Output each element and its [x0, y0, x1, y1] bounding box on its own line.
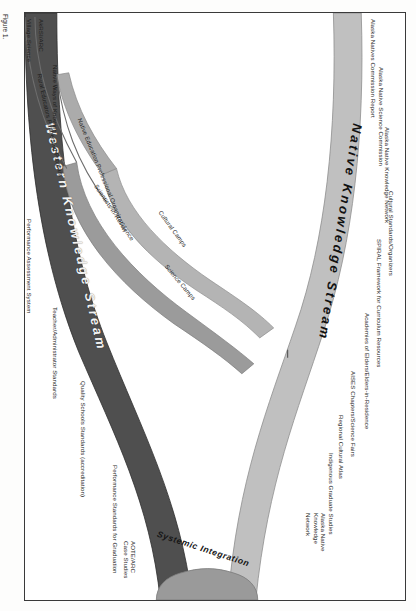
stream-diagram [25, 13, 405, 600]
label-village-science: Village Science [26, 19, 33, 62]
label-academies-of-elders: Academies of Elders/Elders-in-Residence [364, 313, 371, 429]
figure-frame: Alaska Natives Commission Report Alaska … [24, 12, 406, 601]
label-alaska-native-knowledge-network-2: Alaska Native Knowledge Network [305, 513, 327, 563]
label-indigenous-graduate-studies: Indigenous Graduate Studies [328, 453, 335, 535]
label-spiral-framework: SPIRAL Framework for Curriculum Resource… [376, 239, 383, 368]
label-teacher-administrator-standards: Teacher/Administrator Standards [52, 307, 59, 399]
figure-rotated-wrapper: Alaska Natives Commission Report Alaska … [0, 0, 416, 611]
label-alaska-natives-commission-report: Alaska Natives Commission Report [370, 19, 377, 118]
label-performance-assessment-system: Performance Assessment System [26, 219, 33, 313]
label-aises-chapters-science-fairs: AISES Chapters/Science Fairs [350, 371, 357, 457]
label-cultural-standards-organizers: Cultural Standards/Organizers [388, 191, 395, 276]
label-regional-cultural-atlas: Regional Cultural Atlas [338, 415, 345, 479]
label-quality-schools-standards: Quality Schools Standards (accreditation… [80, 381, 87, 497]
label-akrsi-arc: AkRSI/ARC [38, 19, 45, 52]
label-performance-standards-for-graduation: Performance Standards for Graduation [112, 465, 119, 574]
figure-caption: Figure 1. [2, 14, 9, 39]
figure-canvas: Alaska Natives Commission Report Alaska … [0, 0, 416, 611]
cultural-camps-tributary [103, 168, 274, 337]
label-aote-arc-case-studies: AOTE/ARC Case Studies [122, 541, 137, 587]
